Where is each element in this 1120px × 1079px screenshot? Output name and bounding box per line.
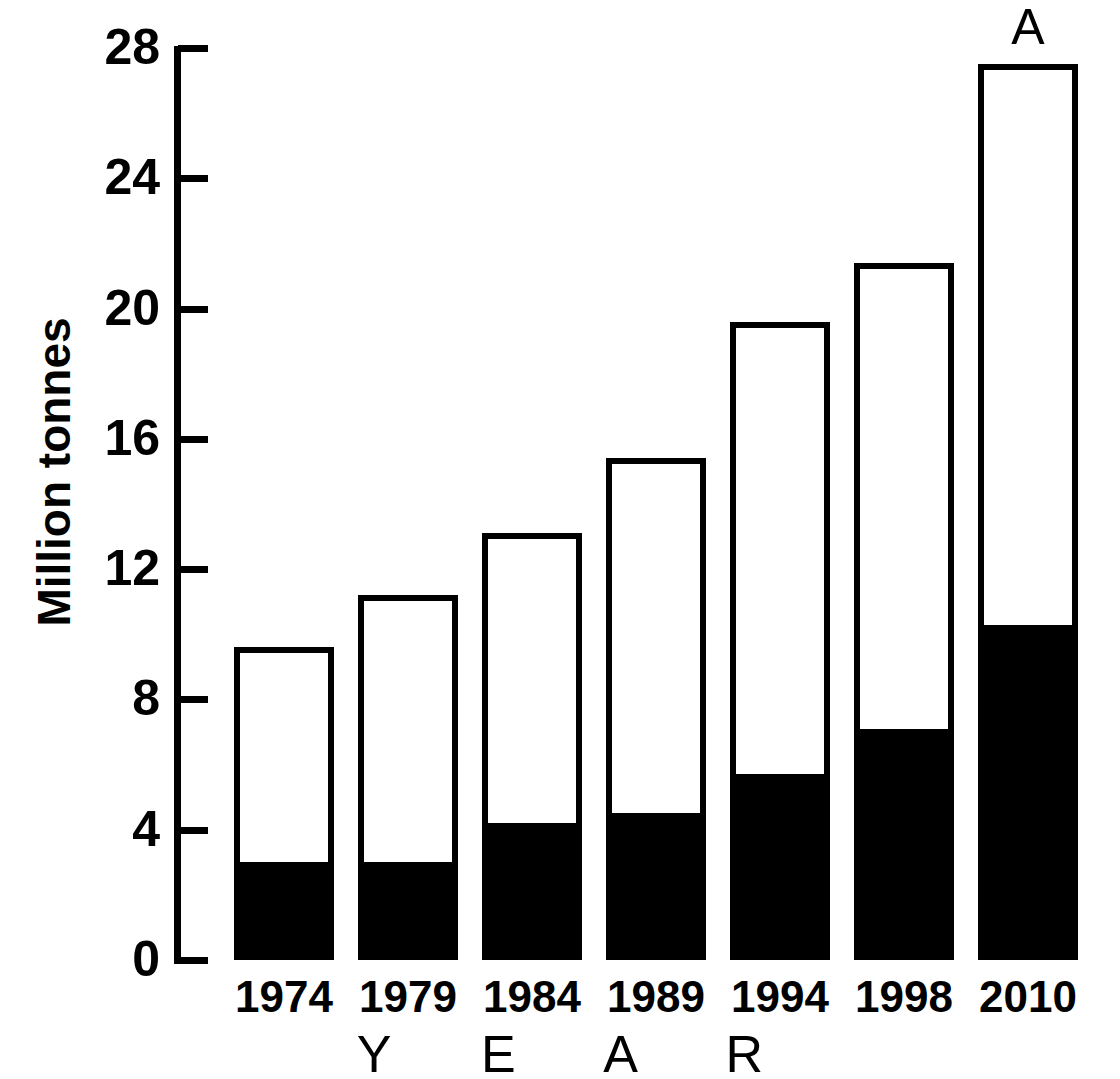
bar-segment-lower-1989: [606, 813, 706, 960]
bar-1998: [854, 263, 954, 960]
y-axis-tick-label: 24: [30, 152, 160, 202]
y-axis-tick-label: 8: [30, 673, 160, 723]
bar-1994: [730, 322, 830, 960]
bar-segment-lower-1998: [854, 729, 954, 960]
y-axis-tick-label: 16: [30, 413, 160, 463]
bar-2010: [978, 64, 1078, 960]
y-axis-tick-label: 0: [30, 934, 160, 984]
bar-chart: Million tonnes 0481216202428 A 197419791…: [0, 0, 1120, 1079]
bar-segment-lower-1979: [358, 862, 458, 960]
bar-segment-lower-2010: [978, 625, 1078, 960]
bar-segment-lower-1974: [234, 862, 334, 960]
bar-segment-lower-1994: [730, 774, 830, 960]
plot-area: [178, 0, 1120, 964]
y-axis-tick-label: 28: [30, 22, 160, 72]
bar-segment-lower-1984: [482, 823, 582, 960]
y-axis-tick-label: 20: [30, 283, 160, 333]
y-axis-tick-label: 4: [30, 804, 160, 854]
x-axis-title: Y E A R: [0, 1028, 1120, 1079]
bar-1989: [606, 458, 706, 960]
x-axis-tick-label: 2010: [938, 975, 1118, 1019]
bar-1984: [482, 533, 582, 960]
bar-1979: [358, 595, 458, 960]
y-axis-tick-label: 12: [30, 543, 160, 593]
bar-1974: [234, 647, 334, 960]
bar-annotation-2010: A: [968, 2, 1088, 52]
